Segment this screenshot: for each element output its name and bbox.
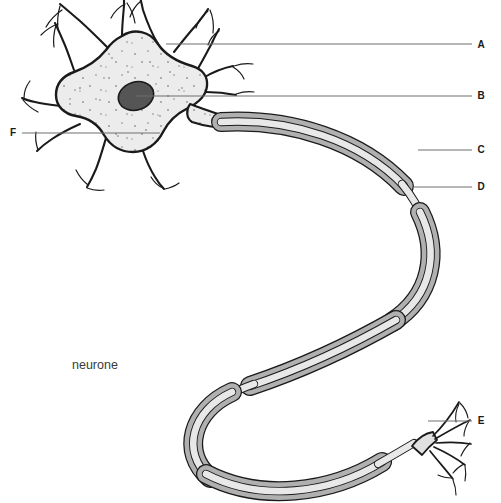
myelin-segment-4 [193, 392, 232, 478]
myelin-segment-2 [392, 212, 431, 322]
myelin-segment-3 [250, 320, 396, 386]
axon-group [193, 122, 430, 492]
myelin-segment-1 [221, 122, 404, 186]
myelin-segment-5 [206, 462, 382, 491]
label-f: F [10, 127, 16, 138]
label-d: D [477, 181, 484, 192]
cell-body-group [22, 0, 254, 190]
label-a: A [477, 39, 484, 50]
label-b: B [477, 90, 484, 101]
label-c: C [477, 144, 484, 155]
neurone-diagram-figure: A B C D E F neurone [0, 0, 501, 503]
dendrite-right [203, 64, 254, 95]
figure-caption: neurone [72, 358, 118, 372]
neurone-diagram-svg: A B C D E F neurone [0, 0, 501, 503]
label-e: E [478, 415, 485, 426]
axon-terminals [412, 402, 471, 495]
